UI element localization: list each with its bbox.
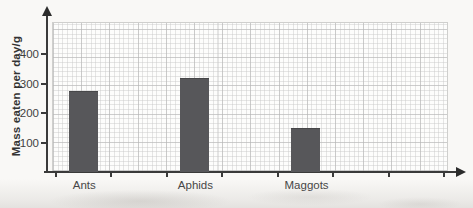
x-tick	[443, 172, 445, 177]
x-axis-arrow-icon	[456, 167, 466, 177]
y-tick	[41, 53, 47, 55]
x-tick	[388, 172, 390, 177]
y-tick-label: 300	[0, 78, 39, 90]
x-tick	[332, 172, 334, 177]
y-tick	[41, 83, 47, 85]
y-tick	[41, 142, 47, 144]
x-tick	[110, 172, 112, 177]
x-axis-line	[44, 171, 458, 173]
y-tick	[41, 112, 47, 114]
x-tick	[55, 172, 57, 177]
x-tick	[166, 172, 168, 177]
plot-area	[52, 22, 448, 172]
x-category-label: Aphids	[178, 179, 213, 191]
x-tick	[277, 172, 279, 177]
y-tick-label: 400	[0, 48, 39, 60]
bar-aphids	[180, 78, 209, 172]
bar-ants	[69, 91, 98, 172]
x-category-label: Ants	[73, 179, 96, 191]
y-tick-label: 200	[0, 107, 39, 119]
bar-maggots	[291, 128, 320, 172]
y-tick-label: 100	[0, 137, 39, 149]
x-tick	[221, 172, 223, 177]
x-category-label: Maggots	[285, 179, 329, 191]
y-axis-line	[46, 10, 48, 173]
y-axis-arrow-icon	[42, 6, 52, 16]
bar-chart: Mass eaten per day/g 100200300400 AntsAp…	[0, 0, 473, 208]
